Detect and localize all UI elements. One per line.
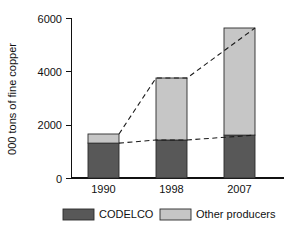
bar-segment-codelco-1990 <box>88 143 119 178</box>
legend-swatch-codelco <box>63 209 94 220</box>
chart-canvas: 000 tons of fine copper 6000 4000 2000 0 <box>0 0 292 231</box>
bar-segment-other-1990 <box>88 134 119 143</box>
copper-production-chart: 000 tons of fine copper 6000 4000 2000 0 <box>0 0 292 231</box>
bar-group-1998 <box>156 78 187 178</box>
bar-group-1990 <box>88 134 119 178</box>
y-tick-label-0: 0 <box>56 173 62 185</box>
bar-group-2007 <box>224 28 255 178</box>
bar-segment-codelco-2007 <box>224 135 255 178</box>
y-tick-label-2000: 2000 <box>38 119 62 131</box>
y-tick-label-6000: 6000 <box>38 13 62 25</box>
legend-label-codelco: CODELCO <box>99 208 154 220</box>
bar-segment-codelco-1998 <box>156 140 187 178</box>
legend-item-codelco: CODELCO <box>63 208 154 220</box>
legend-label-other-producers: Other producers <box>196 208 276 220</box>
bar-segment-other-2007 <box>224 28 255 135</box>
y-axis-title: 000 tons of fine copper <box>6 43 18 155</box>
x-tick-label-1990: 1990 <box>91 183 115 195</box>
x-tick-label-1998: 1998 <box>159 183 183 195</box>
bar-segment-other-1998 <box>156 78 187 140</box>
y-tick-label-4000: 4000 <box>38 66 62 78</box>
x-tick-label-2007: 2007 <box>227 183 251 195</box>
legend-swatch-other-producers <box>160 209 191 220</box>
x-axis-ticks: 1990 1998 2007 <box>91 183 251 195</box>
legend-item-other-producers: Other producers <box>160 208 276 220</box>
